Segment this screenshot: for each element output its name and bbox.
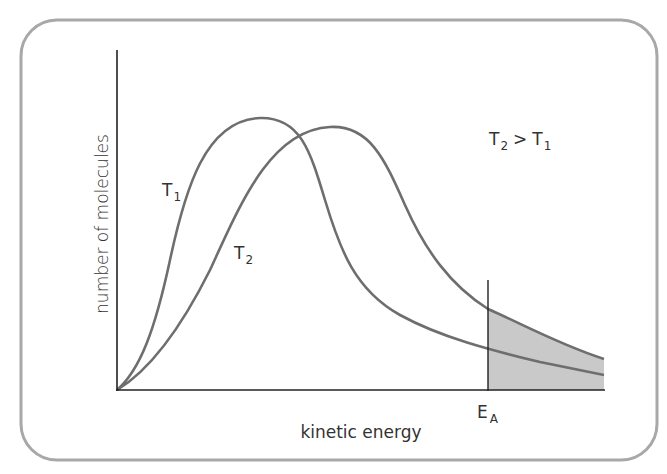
maxwell-boltzmann-diagram: number of molecules kinetic energy EA T1… [0,0,667,474]
t2-label-main: T [233,243,245,263]
x-axis-label: kinetic energy [300,422,421,442]
relation-t2-sub: 2 [500,139,508,153]
ea-label-main: E [477,402,488,422]
relation-t1-sub: 1 [544,139,552,153]
t1-label-sub: 1 [173,190,181,204]
t1-label-main: T [161,180,173,200]
relation-t2: T [488,129,500,149]
t2-label-sub: 2 [245,253,253,267]
y-axis-label: number of molecules [92,134,112,314]
relation-t1: T [531,129,543,149]
relation-operator: > [513,129,527,149]
ea-label-sub: A [490,412,499,426]
